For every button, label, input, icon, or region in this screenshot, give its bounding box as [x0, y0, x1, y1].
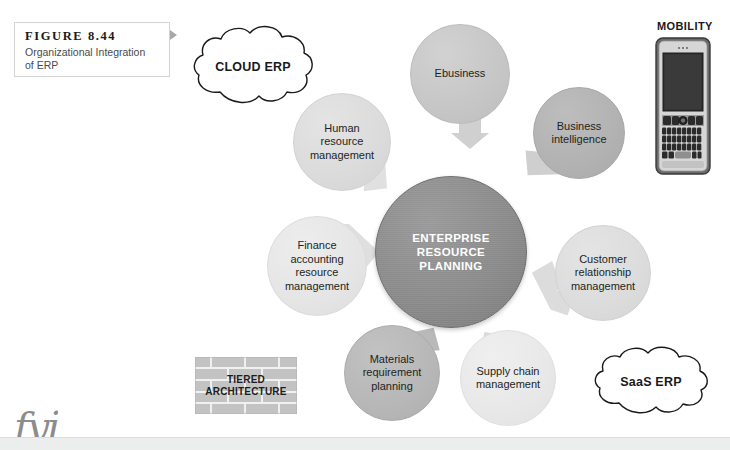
node-finance-accounting-resource-management-label: Finance accounting resource management: [279, 239, 355, 293]
node-enterprise-resource-planning[interactable]: ENTERPRISE RESOURCE PLANNING: [375, 176, 527, 328]
node-customer-relationship-management-label: Customer relationship management: [565, 253, 641, 294]
smartphone-icon[interactable]: [655, 37, 711, 175]
node-ebusiness-label: Ebusiness: [429, 67, 492, 81]
node-customer-relationship-management[interactable]: Customer relationship management: [555, 225, 651, 321]
node-materials-requirement-planning[interactable]: Materials requirement planning: [344, 325, 440, 421]
node-ebusiness[interactable]: Ebusiness: [410, 24, 510, 124]
mobility-label: MOBILITY: [657, 20, 727, 32]
cloud-erp[interactable]: CLOUD ERP: [190, 22, 316, 110]
mobility-group: MOBILITY: [655, 20, 727, 179]
cloud-erp-label: CLOUD ERP: [190, 60, 316, 74]
node-finance-accounting-resource-management[interactable]: Finance accounting resource management: [267, 216, 367, 316]
node-materials-requirement-planning-label: Materials requirement planning: [357, 353, 428, 394]
tiered-architecture-label: TIERED ARCHITECTURE: [195, 374, 297, 398]
cloud-saas-erp[interactable]: SaaS ERP: [589, 345, 713, 419]
node-business-intelligence[interactable]: Business intelligence: [533, 87, 625, 179]
node-center-label: ENTERPRISE RESOURCE PLANNING: [406, 231, 496, 273]
tiered-architecture-group[interactable]: TIERED ARCHITECTURE: [195, 357, 297, 414]
node-supply-chain-management[interactable]: Supply chain management: [460, 330, 556, 426]
node-supply-chain-management-label: Supply chain management: [470, 365, 546, 392]
node-human-resource-management-label: Human resource management: [304, 122, 380, 163]
page-footer-bar: [0, 437, 730, 450]
figure-canvas: FIGURE 8.44 Organizational Integration o…: [0, 0, 730, 450]
cloud-saas-erp-label: SaaS ERP: [589, 375, 713, 389]
node-business-intelligence-label: Business intelligence: [545, 120, 612, 147]
